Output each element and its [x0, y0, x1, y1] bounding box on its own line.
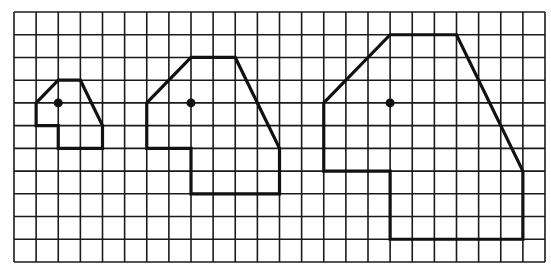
polygon-large	[324, 35, 523, 240]
center-point-medium	[187, 98, 196, 107]
center-point-small	[54, 98, 63, 107]
center-point-large	[386, 98, 395, 107]
polygon-small	[36, 80, 102, 148]
grid-diagram	[0, 0, 551, 269]
